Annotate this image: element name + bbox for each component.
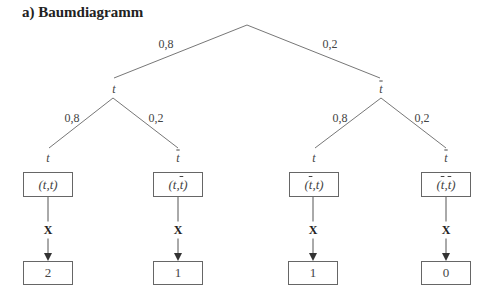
- outcome-pair: (t,t): [38, 177, 57, 193]
- outcome-pair: (t,t): [304, 177, 323, 193]
- value-box: 1: [288, 261, 338, 285]
- value-text: 2: [45, 265, 52, 281]
- node-t: t: [112, 82, 115, 97]
- node-tbar: t: [176, 151, 179, 166]
- mapping-label: X: [442, 222, 451, 239]
- value-box: 2: [23, 261, 73, 285]
- outcome-box: (t,t): [23, 172, 73, 197]
- mapping-label: X: [174, 222, 183, 239]
- value-text: 1: [310, 265, 317, 281]
- tree-edges: [0, 0, 494, 297]
- edge-root-t: [114, 25, 247, 78]
- outcome-box: (t,t): [153, 172, 203, 197]
- node-tbar: t: [444, 151, 447, 166]
- node-t: t: [46, 151, 49, 166]
- value-box: 0: [421, 261, 471, 285]
- edge-tbar-t: [315, 98, 381, 148]
- prob-label: 0,8: [333, 111, 348, 126]
- prob-label: 0,8: [65, 111, 80, 126]
- prob-label: 0,2: [149, 111, 164, 126]
- value-box: 1: [153, 261, 203, 285]
- node-t: t: [312, 151, 315, 166]
- value-text: 0: [443, 265, 450, 281]
- prob-label: 0,8: [159, 37, 174, 52]
- edge-t-tbar: [113, 98, 178, 148]
- outcome-pair: (t,t): [436, 177, 455, 193]
- value-text: 1: [175, 265, 182, 281]
- outcome-pair: (t,t): [168, 177, 187, 193]
- mapping-label: X: [44, 222, 53, 239]
- edge-root-tbar: [247, 25, 380, 78]
- edge-tbar-tbar: [381, 98, 446, 148]
- prob-label: 0,2: [415, 111, 430, 126]
- prob-label: 0,2: [323, 37, 338, 52]
- outcome-box: (t,t): [289, 172, 339, 197]
- node-tbar: t: [379, 82, 382, 97]
- edge-t-t: [49, 98, 113, 148]
- outcome-box: (t,t): [421, 172, 471, 197]
- mapping-label: X: [309, 222, 318, 239]
